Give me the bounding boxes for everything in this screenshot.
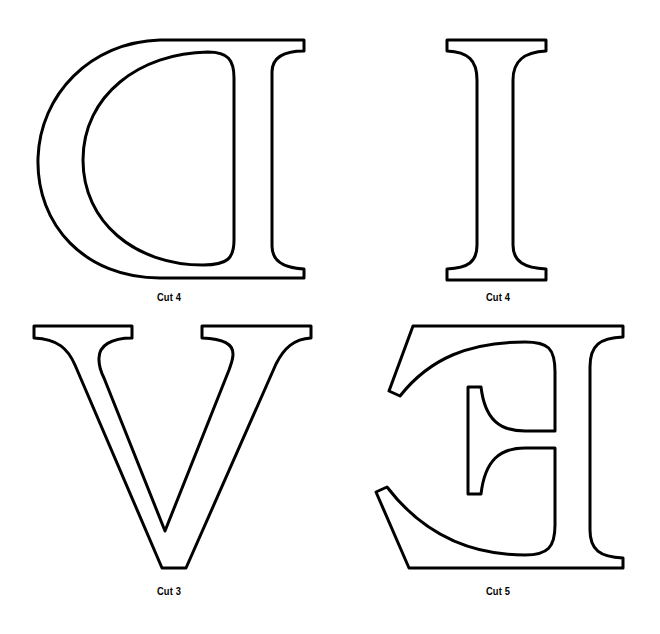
letter-i-path [447,40,546,280]
stencil-sheet: Cut 4 Cut 4 Cut 3 Cut 5 [0,0,660,634]
letter-d-mirrored-outline [38,40,304,278]
letter-e-path [376,326,623,568]
letter-i-outline [447,40,546,280]
letter-e-mirrored-outline [376,326,623,568]
letter-v-path [34,326,311,568]
letter-v-outline [34,326,311,568]
letter-outlines [0,0,660,634]
cut-label-v: Cut 3 [157,585,181,597]
cut-label-e: Cut 5 [486,585,510,597]
cut-label-d: Cut 4 [157,291,181,303]
cut-label-i: Cut 4 [486,291,510,303]
